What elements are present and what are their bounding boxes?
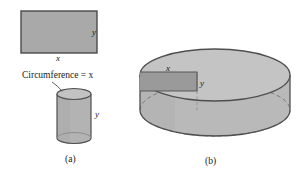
geometry-figure: y x Circumference = x y x y (a) (b) bbox=[0, 0, 298, 180]
flat-rectangle bbox=[21, 11, 97, 53]
inscribed-rectangle-group bbox=[131, 72, 197, 91]
big-rect-width-label: x bbox=[166, 64, 170, 73]
big-rect-height-label: y bbox=[200, 79, 204, 88]
small-cylinder-height-label: y bbox=[95, 110, 99, 119]
large-cylinder bbox=[131, 49, 290, 136]
rect-width-label: x bbox=[56, 54, 60, 63]
caption-a: (a) bbox=[65, 155, 76, 165]
circumference-label: Circumference = x bbox=[22, 71, 93, 81]
rect-height-label: y bbox=[92, 28, 96, 37]
caption-b: (b) bbox=[205, 157, 216, 167]
figure-canvas bbox=[0, 0, 298, 180]
circumference-leader-line bbox=[52, 82, 62, 92]
small-cylinder-top-ellipse bbox=[57, 89, 91, 100]
inscribed-rectangle bbox=[131, 72, 197, 91]
small-cylinder bbox=[52, 82, 91, 143]
